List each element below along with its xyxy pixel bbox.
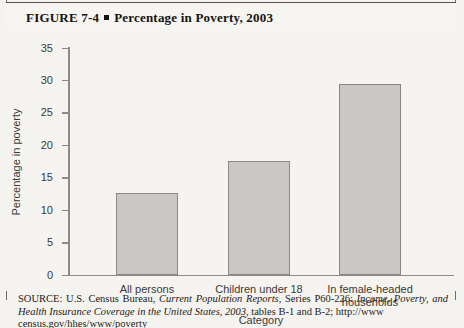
y-tick-label-35: 35	[41, 42, 53, 54]
bar-children-under-18	[228, 161, 290, 275]
square-bullet-icon	[104, 15, 109, 20]
plot-area: Percentage in poverty 0 5 10 15 20 25 30…	[68, 47, 454, 276]
source-note-clipped-line: census.gov/hhes/www/poverty	[18, 318, 448, 328]
source-text-3: , tables B-1 and B-2; http://www	[246, 306, 384, 317]
source-text-4: census.gov/hhes/www/poverty	[18, 318, 147, 328]
figure-title: FIGURE 7-4Percentage in Poverty, 2003	[26, 10, 273, 26]
source-text-1: SOURCE: U.S. Census Bureau,	[18, 293, 159, 304]
figure-page: FIGURE 7-4Percentage in Poverty, 2003 Pe…	[0, 0, 464, 328]
bar-female-headed-households	[339, 84, 401, 274]
source-italic-1: Current Population Reports	[159, 293, 279, 304]
bar-all-persons	[116, 193, 178, 274]
y-tick-label-25: 25	[41, 106, 53, 118]
y-tick-label-10: 10	[41, 204, 53, 216]
source-note: SOURCE: U.S. Census Bureau, Current Popu…	[18, 293, 448, 318]
figure-title-text: Percentage in Poverty, 2003	[114, 10, 273, 25]
y-tick-10: 10	[62, 210, 68, 212]
y-tick-label-0: 0	[47, 269, 53, 281]
y-tick-0: 0	[62, 275, 68, 277]
source-italic-2: Income, Poverty,	[357, 293, 429, 304]
y-tick-25: 25	[62, 112, 68, 114]
y-tick-35: 35	[62, 48, 68, 50]
y-tick-label-15: 15	[41, 171, 53, 183]
source-text-2: , Series P60-226:	[279, 293, 357, 304]
y-tick-30: 30	[62, 80, 68, 82]
y-tick-label-20: 20	[41, 139, 53, 151]
y-tick-5: 5	[62, 242, 68, 244]
y-tick-label-5: 5	[47, 236, 53, 248]
y-tick-15: 15	[62, 177, 68, 179]
bar-chart: Percentage in poverty 0 5 10 15 20 25 30…	[6, 29, 456, 291]
y-tick-label-30: 30	[41, 74, 53, 86]
y-tick-20: 20	[62, 145, 68, 147]
x-axis	[68, 275, 454, 277]
y-axis-label: Percentage in poverty	[10, 108, 22, 215]
figure-title-box: FIGURE 7-4Percentage in Poverty, 2003	[6, 2, 456, 30]
figure-number: FIGURE 7-4	[26, 10, 99, 25]
y-axis	[68, 47, 70, 276]
